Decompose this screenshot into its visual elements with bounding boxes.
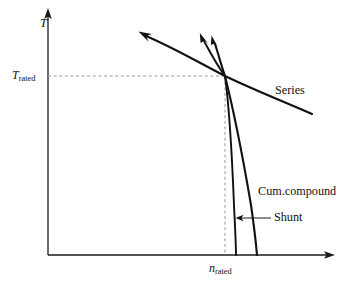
t-rated-tick-label: Trated [12, 69, 35, 81]
torque-speed-figure: T Trated nrated Series Cum.compound Shun… [0, 0, 345, 286]
rated-guides-group [48, 76, 225, 255]
n-rated-subscript: rated [215, 267, 232, 276]
t-rated-symbol: T [12, 68, 19, 82]
series-curve-label: Series [275, 84, 305, 96]
n-rated-tick-label: nrated [209, 262, 232, 274]
series-curve [146, 36, 312, 114]
figure-canvas [0, 0, 345, 286]
cum-compound-curve-label: Cum.compound [258, 185, 336, 197]
y-axis-title: T [40, 17, 47, 30]
t-rated-subscript: rated [19, 74, 36, 83]
cum-compound-curve [215, 44, 257, 255]
series-curve-group [139, 32, 313, 115]
shunt-curve-label: Shunt [274, 211, 302, 223]
